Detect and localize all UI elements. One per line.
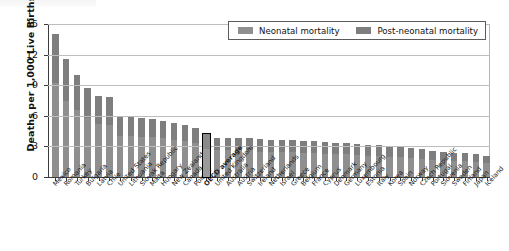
legend-swatch-post-neonatal-icon xyxy=(356,27,371,34)
x-label-iceland: Iceland xyxy=(484,166,505,188)
bar-segment-neonatal xyxy=(203,149,209,177)
legend-item-post-neonatal: Post-neonatal mortality xyxy=(356,26,478,36)
bar-oecd-average xyxy=(203,134,209,177)
legend-swatch-neonatal-icon xyxy=(238,27,253,34)
legend-label-post-neonatal: Post-neonatal mortality xyxy=(377,26,478,36)
infant-mortality-bar-chart: 03691215 Deaths per 1,000 Live Births Me… xyxy=(0,0,509,251)
bar-segment-post-neonatal xyxy=(203,134,209,149)
chart-legend: Neonatal mortality Post-neonatal mortali… xyxy=(228,21,486,40)
legend-label-neonatal: Neonatal mortality xyxy=(259,26,339,36)
legend-item-neonatal: Neonatal mortality xyxy=(238,26,339,36)
